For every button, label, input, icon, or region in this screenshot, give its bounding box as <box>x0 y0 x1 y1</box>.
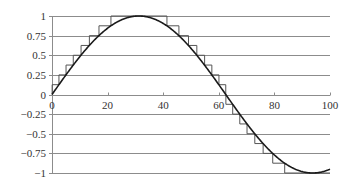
x-tick-label: 80 <box>269 99 281 111</box>
x-tick-label: 40 <box>158 99 170 111</box>
y-axis <box>49 16 53 174</box>
x-tick-labels: 020406080100 <box>49 99 339 111</box>
x-tick-label: 0 <box>49 99 55 111</box>
x-tick-label: 60 <box>213 99 225 111</box>
y-tick-label: 1 <box>41 10 47 22</box>
sine-curve-series <box>52 16 330 173</box>
y-tick-label: −0.75 <box>21 147 47 159</box>
x-tick-label: 20 <box>102 99 114 111</box>
chart: 10.750.50.250−0.25−0.5−0.75−1 0204060801… <box>0 0 353 188</box>
y-tick-label: −0.25 <box>21 108 47 120</box>
y-tick-label: 0.75 <box>27 30 47 42</box>
y-tick-label: 0.25 <box>27 69 47 81</box>
quantized-staircase-series <box>52 16 330 173</box>
y-tick-label: −1 <box>34 167 46 179</box>
y-tick-label: −0.5 <box>26 128 46 140</box>
y-tick-label: 0 <box>41 89 47 101</box>
y-tick-labels: 10.750.50.250−0.25−0.5−0.75−1 <box>21 10 47 179</box>
y-tick-label: 0.5 <box>32 49 46 61</box>
x-tick-label: 100 <box>322 99 339 111</box>
